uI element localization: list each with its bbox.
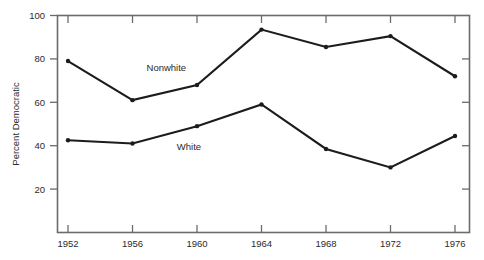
data-point (66, 59, 70, 63)
y-tick-label-40: 40 (34, 140, 45, 151)
y-tick-label-100: 100 (29, 10, 45, 21)
series-layer (66, 27, 457, 169)
data-point (259, 27, 263, 31)
x-tick-label-1972: 1972 (380, 238, 401, 249)
y-axis-ticks-right (462, 59, 470, 189)
data-point (324, 45, 328, 49)
data-point (259, 102, 263, 106)
x-tick-label-1964: 1964 (251, 238, 272, 249)
series-line-nonwhite (68, 30, 455, 101)
data-point (66, 138, 70, 142)
x-tick-label-1956: 1956 (122, 238, 143, 249)
data-point (195, 124, 199, 128)
data-point (324, 147, 328, 151)
x-tick-label-1960: 1960 (186, 238, 207, 249)
data-point (130, 141, 134, 145)
y-axis-tick-labels: 100 80 60 40 20 (29, 10, 45, 195)
series-label-white: White (177, 141, 201, 152)
x-axis-tick-labels: 1952 1956 1960 1964 1968 1972 1976 (57, 238, 465, 249)
x-axis-ticks-top (68, 16, 455, 24)
y-tick-label-80: 80 (34, 53, 45, 64)
series-nonwhite (66, 27, 457, 102)
data-point (388, 165, 392, 169)
y-axis-ticks-left (50, 16, 58, 190)
data-point (388, 34, 392, 38)
y-tick-label-20: 20 (34, 184, 45, 195)
chart-canvas: 100 80 60 40 20 Percent Democratic (0, 0, 484, 260)
series-white (66, 102, 457, 169)
x-tick-label-1976: 1976 (444, 238, 465, 249)
series-line-white (68, 104, 455, 167)
line-chart: 100 80 60 40 20 Percent Democratic (0, 0, 484, 260)
data-point (453, 74, 457, 78)
x-tick-label-1968: 1968 (315, 238, 336, 249)
data-point (195, 83, 199, 87)
data-point (130, 98, 134, 102)
x-tick-label-1952: 1952 (57, 238, 78, 249)
y-axis-title: Percent Democratic (10, 82, 21, 166)
x-axis-ticks-bottom (68, 225, 455, 233)
y-tick-label-60: 60 (34, 97, 45, 108)
data-point (453, 134, 457, 138)
series-label-nonwhite: Nonwhite (147, 62, 187, 73)
